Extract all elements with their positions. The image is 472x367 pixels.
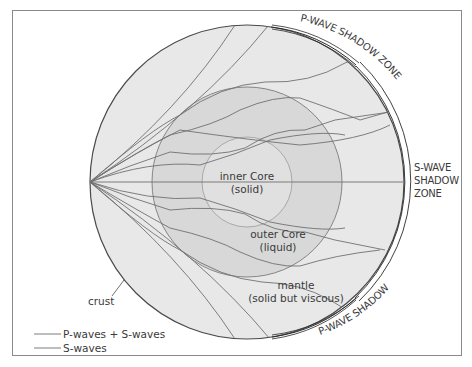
crust-leader-line — [112, 280, 124, 296]
mantle-label: mantle — [278, 279, 315, 291]
legend: P-waves + S-waves S-waves — [34, 328, 165, 354]
inner-core-sublabel: (solid) — [231, 183, 264, 195]
legend-label-s-waves: S-waves — [63, 342, 107, 354]
legend-label-p-s-waves: P-waves + S-waves — [63, 328, 165, 340]
s-wave-shadow-label-line2: SHADOW — [414, 175, 459, 186]
earth-diagram: P-WAVE SHADOW ZONE P-WAVE SHADOW ZONE S-… — [0, 0, 472, 367]
inner-core-label: inner Core — [220, 170, 275, 182]
outer-core-sublabel: (liquid) — [260, 241, 297, 253]
crust-label: crust — [88, 295, 114, 307]
s-wave-shadow-label-line3: ZONE — [414, 188, 442, 199]
outer-core-label: outer Core — [250, 228, 306, 240]
mantle-sublabel: (solid but viscous) — [248, 292, 344, 304]
s-wave-shadow-label-line1: S-WAVE — [414, 162, 451, 173]
